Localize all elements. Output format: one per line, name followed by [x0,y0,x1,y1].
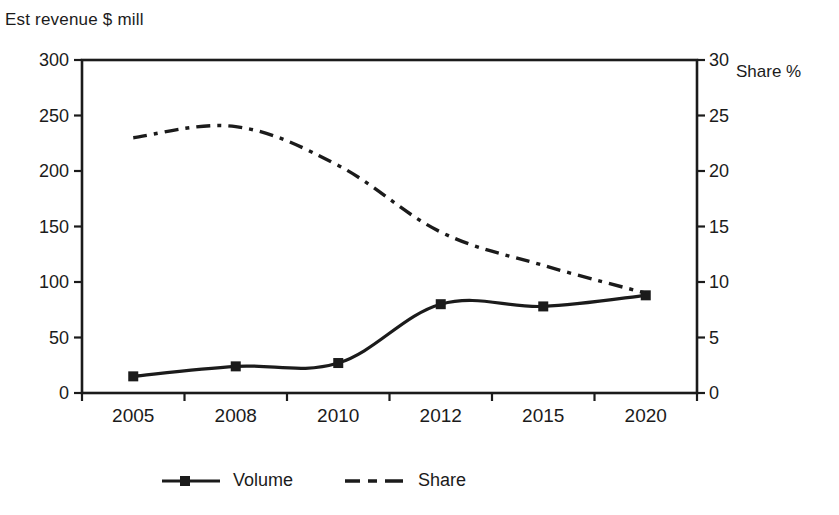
left-axis-tick-label: 250 [39,106,69,126]
left-axis-tick-label: 150 [39,217,69,237]
legend-volume-swatch [162,474,220,488]
right-axis-tick-label: 0 [709,383,719,403]
legend-share-swatch [345,474,403,488]
right-axis-tick-label: 25 [709,106,729,126]
series-volume-marker [436,299,446,309]
right-axis-tick-label: 10 [709,272,729,292]
series-volume-marker [538,301,548,311]
plot-frame [82,60,697,393]
legend: Volume Share [162,470,466,491]
x-axis-label: 2008 [215,405,257,426]
plot-area: 0501001502002503000510152025302005200820… [0,0,839,515]
x-axis-label: 2012 [420,405,462,426]
series-volume-line [133,295,646,376]
x-axis-label: 2010 [317,405,359,426]
chart: Est revenue $ mill Share % 0501001502002… [0,0,839,515]
x-axis-label: 2015 [522,405,564,426]
left-axis-tick-label: 100 [39,272,69,292]
right-axis-tick-label: 15 [709,217,729,237]
right-axis-tick-label: 20 [709,161,729,181]
left-axis-tick-label: 0 [59,383,69,403]
left-axis-tick-label: 300 [39,50,69,70]
left-axis-tick-label: 50 [49,328,69,348]
left-axis-tick-label: 200 [39,161,69,181]
right-axis-tick-label: 5 [709,328,719,348]
series-volume-marker [333,358,343,368]
series-volume-marker [231,361,241,371]
x-axis-label: 2005 [112,405,154,426]
series-share-line [133,126,646,294]
legend-volume-label: Volume [233,470,293,491]
right-axis-tick-label: 30 [709,50,729,70]
series-volume-marker [128,371,138,381]
legend-share-label: Share [418,470,466,491]
x-axis-label: 2020 [625,405,667,426]
volume-square-marker-icon [180,476,190,486]
